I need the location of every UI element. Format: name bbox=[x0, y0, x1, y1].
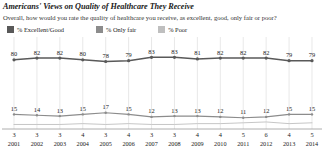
data-label: 4 bbox=[287, 131, 291, 138]
x-tick-label: 2012 bbox=[260, 140, 272, 147]
plot-area: 3334343344564515141315171512131312111215… bbox=[0, 35, 323, 151]
data-label: 83 bbox=[171, 48, 177, 55]
data-label: 3 bbox=[12, 131, 15, 138]
data-point[interactable] bbox=[104, 112, 106, 114]
data-point[interactable] bbox=[12, 58, 15, 61]
data-label: 3 bbox=[58, 131, 61, 138]
data-label: 15 bbox=[309, 105, 315, 112]
chart-container: Americans' Views on Quality of Healthcar… bbox=[0, 0, 323, 161]
data-point[interactable] bbox=[35, 57, 38, 60]
data-point[interactable] bbox=[58, 57, 61, 60]
data-point[interactable] bbox=[287, 59, 290, 62]
legend-item-only-fair[interactable]: % Only fair bbox=[96, 26, 136, 33]
data-label: 3 bbox=[104, 131, 107, 138]
data-label: 80 bbox=[80, 50, 86, 57]
data-label: 14 bbox=[34, 106, 41, 113]
x-tick-label: 2008 bbox=[168, 140, 180, 147]
data-label: 13 bbox=[194, 107, 200, 114]
legend-item-label: % Poor bbox=[168, 26, 187, 33]
legend-item-label: % Only fair bbox=[106, 26, 136, 33]
x-tick-label: 2004 bbox=[77, 140, 89, 147]
data-point[interactable] bbox=[265, 57, 268, 60]
data-label: 3 bbox=[173, 131, 176, 138]
data-point[interactable] bbox=[196, 57, 199, 60]
data-label: 11 bbox=[240, 108, 246, 115]
data-label: 5 bbox=[242, 131, 245, 138]
data-label: 15 bbox=[125, 105, 131, 112]
legend-swatch-icon bbox=[96, 26, 103, 33]
data-point[interactable] bbox=[81, 58, 84, 61]
data-point[interactable] bbox=[219, 57, 222, 60]
data-label: 3 bbox=[150, 131, 153, 138]
data-label: 17 bbox=[102, 103, 109, 110]
data-label: 12 bbox=[263, 107, 269, 114]
data-label: 12 bbox=[148, 107, 154, 114]
data-label: 13 bbox=[57, 107, 63, 114]
x-tick-label: 2002 bbox=[31, 140, 43, 147]
data-label: 12 bbox=[217, 107, 223, 114]
data-point[interactable] bbox=[173, 56, 176, 59]
data-label: 79 bbox=[125, 51, 131, 58]
data-label: 5 bbox=[310, 131, 313, 138]
data-label: 4 bbox=[219, 131, 223, 138]
x-tick-label: 2003 bbox=[54, 140, 66, 147]
data-point[interactable] bbox=[36, 114, 38, 116]
legend-item-poor[interactable]: % Poor bbox=[158, 26, 187, 33]
line-chart-svg: 3334343344564515141315171512131312111215… bbox=[0, 35, 323, 151]
data-label: 80 bbox=[11, 50, 17, 57]
data-point[interactable] bbox=[13, 113, 15, 115]
data-point[interactable] bbox=[310, 59, 313, 62]
series-line bbox=[14, 122, 312, 125]
data-point[interactable] bbox=[173, 115, 175, 117]
data-point[interactable] bbox=[127, 59, 130, 62]
data-point[interactable] bbox=[127, 113, 129, 115]
x-tick-label: 2013 bbox=[283, 140, 295, 147]
x-tick-label: 2010 bbox=[214, 140, 226, 147]
x-tick-label: 2007 bbox=[145, 140, 157, 147]
data-label: 82 bbox=[217, 49, 223, 56]
data-label: 78 bbox=[102, 52, 108, 59]
chart-legend: % Excellent/Good % Only fair % Poor bbox=[3, 25, 320, 34]
data-label: 79 bbox=[286, 51, 292, 58]
data-label: 82 bbox=[34, 49, 40, 56]
chart-title: Americans' Views on Quality of Healthcar… bbox=[3, 2, 320, 12]
chart-subtitle: Overall, how would you rate the quality … bbox=[3, 13, 320, 22]
data-label: 82 bbox=[57, 49, 63, 56]
legend-swatch-icon bbox=[7, 26, 14, 33]
data-point[interactable] bbox=[150, 56, 153, 59]
data-label: 83 bbox=[148, 48, 154, 55]
x-tick-label: 2009 bbox=[191, 140, 203, 147]
data-point[interactable] bbox=[104, 60, 107, 63]
legend-item-label: % Excellent/Good bbox=[17, 26, 64, 33]
data-label: 13 bbox=[171, 107, 177, 114]
data-label: 4 bbox=[196, 131, 200, 138]
x-tick-label: 2005 bbox=[100, 140, 112, 147]
legend-swatch-icon bbox=[158, 26, 165, 33]
data-point[interactable] bbox=[150, 116, 152, 118]
data-point[interactable] bbox=[59, 115, 61, 117]
data-point[interactable] bbox=[265, 116, 267, 118]
data-point[interactable] bbox=[219, 116, 221, 118]
legend-item-excellent-good[interactable]: % Excellent/Good bbox=[7, 26, 64, 33]
data-label: 79 bbox=[309, 51, 315, 58]
data-label: 3 bbox=[35, 131, 38, 138]
data-label: 15 bbox=[286, 105, 292, 112]
x-tick-label: 2014 bbox=[306, 140, 318, 147]
data-label: 82 bbox=[240, 49, 246, 56]
x-tick-label: 2011 bbox=[237, 140, 249, 147]
x-tick-label: 2006 bbox=[122, 140, 134, 147]
data-label: 15 bbox=[80, 105, 86, 112]
data-point[interactable] bbox=[242, 117, 244, 119]
data-point[interactable] bbox=[288, 113, 290, 115]
data-point[interactable] bbox=[242, 57, 245, 60]
data-label: 15 bbox=[11, 105, 17, 112]
data-label: 81 bbox=[194, 49, 200, 56]
data-label: 82 bbox=[263, 49, 269, 56]
x-tick-label: 2001 bbox=[8, 140, 20, 147]
data-point[interactable] bbox=[82, 113, 84, 115]
data-label: 6 bbox=[265, 131, 268, 138]
data-label: 4 bbox=[81, 131, 85, 138]
data-point[interactable] bbox=[311, 113, 313, 115]
data-point[interactable] bbox=[196, 115, 198, 117]
data-label: 4 bbox=[127, 131, 131, 138]
